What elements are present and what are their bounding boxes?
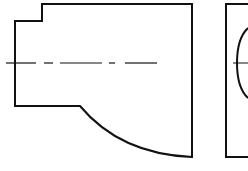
front-view (6, 4, 192, 157)
side-view (226, 4, 248, 157)
technical-drawing (0, 0, 248, 171)
side-view-outline (226, 4, 248, 157)
front-view-outline (15, 4, 192, 157)
drawing-svg (0, 0, 248, 171)
